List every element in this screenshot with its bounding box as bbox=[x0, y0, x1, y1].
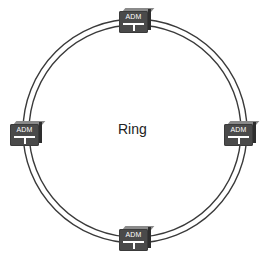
adm-label: ADM bbox=[224, 126, 253, 133]
adm-bevel-side bbox=[253, 122, 256, 143]
adm-bevel-side bbox=[148, 9, 151, 30]
adm-label: ADM bbox=[10, 126, 39, 133]
adm-node-left: ADM bbox=[10, 121, 42, 146]
adm-node-top: ADM bbox=[119, 8, 151, 33]
adm-bevel-side bbox=[148, 227, 151, 248]
adm-t-stem-icon bbox=[24, 136, 26, 144]
adm-t-stem-icon bbox=[238, 136, 240, 144]
adm-bevel-side bbox=[39, 122, 42, 143]
adm-t-stem-icon bbox=[133, 241, 135, 249]
adm-label: ADM bbox=[119, 231, 148, 238]
adm-node-bottom: ADM bbox=[119, 226, 151, 251]
ring-label: Ring bbox=[118, 121, 147, 137]
adm-label: ADM bbox=[119, 13, 148, 20]
adm-node-right: ADM bbox=[224, 121, 256, 146]
adm-t-stem-icon bbox=[133, 23, 135, 31]
